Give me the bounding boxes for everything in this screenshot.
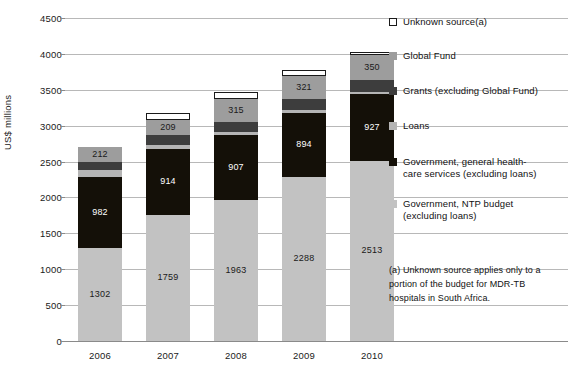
legend-item-label: Unknown source(a) bbox=[403, 16, 487, 28]
y-axis-tick-labels: 050010001500200025003000350040004500 bbox=[22, 0, 62, 369]
y-axis-title: US$ millions bbox=[2, 30, 13, 150]
plot-area: US$ millions 050010001500200025003000350… bbox=[0, 0, 568, 369]
x-tick-label: 2007 bbox=[146, 350, 190, 361]
legend-item-label: Global Fund bbox=[403, 50, 456, 62]
legend-item-label: Loans bbox=[403, 120, 429, 132]
legend-item[interactable]: Global Fund bbox=[389, 50, 456, 62]
y-tick-label: 4000 bbox=[22, 48, 62, 59]
legend-item[interactable]: Loans bbox=[389, 120, 429, 132]
legend-item[interactable]: Government, general health-care services… bbox=[389, 156, 537, 179]
legend-swatch-icon bbox=[389, 122, 397, 130]
y-tick-label: 2500 bbox=[22, 156, 62, 167]
y-tick-label: 1000 bbox=[22, 264, 62, 275]
y-tick-label: 500 bbox=[22, 300, 62, 311]
footnote-text: (a) Unknown source applies only to a por… bbox=[389, 263, 561, 305]
legend-item[interactable]: Unknown source(a) bbox=[389, 16, 487, 28]
x-tick-label: 2009 bbox=[282, 350, 326, 361]
x-tick-label: 2008 bbox=[214, 350, 258, 361]
legend-swatch-icon bbox=[389, 18, 397, 26]
y-tick-label: 1500 bbox=[22, 228, 62, 239]
legend-swatch-icon bbox=[389, 87, 397, 95]
legend-swatch-icon bbox=[389, 200, 397, 208]
legend-swatch-icon bbox=[389, 158, 397, 166]
y-tick-label: 4500 bbox=[22, 13, 62, 24]
y-tick-label: 2000 bbox=[22, 192, 62, 203]
legend-item-label: Government, NTP budget(excluding loans) bbox=[403, 198, 513, 221]
y-tick-label: 3000 bbox=[22, 120, 62, 131]
x-tick-label: 2006 bbox=[78, 350, 122, 361]
chart-figure: US$ millions 050010001500200025003000350… bbox=[0, 0, 568, 369]
legend-swatch-icon bbox=[389, 52, 397, 60]
x-tick-label: 2010 bbox=[350, 350, 394, 361]
legend-item[interactable]: Grants (excluding Global Fund) bbox=[389, 85, 538, 97]
legend-item-label: Grants (excluding Global Fund) bbox=[403, 85, 538, 97]
y-tick-label: 3500 bbox=[22, 84, 62, 95]
legend-item[interactable]: Government, NTP budget(excluding loans) bbox=[389, 198, 513, 221]
y-tick-label: 0 bbox=[22, 336, 62, 347]
legend-item-label: Government, general health-care services… bbox=[403, 156, 537, 179]
x-axis-tick-labels: 20062007200820092010 bbox=[64, 0, 384, 369]
